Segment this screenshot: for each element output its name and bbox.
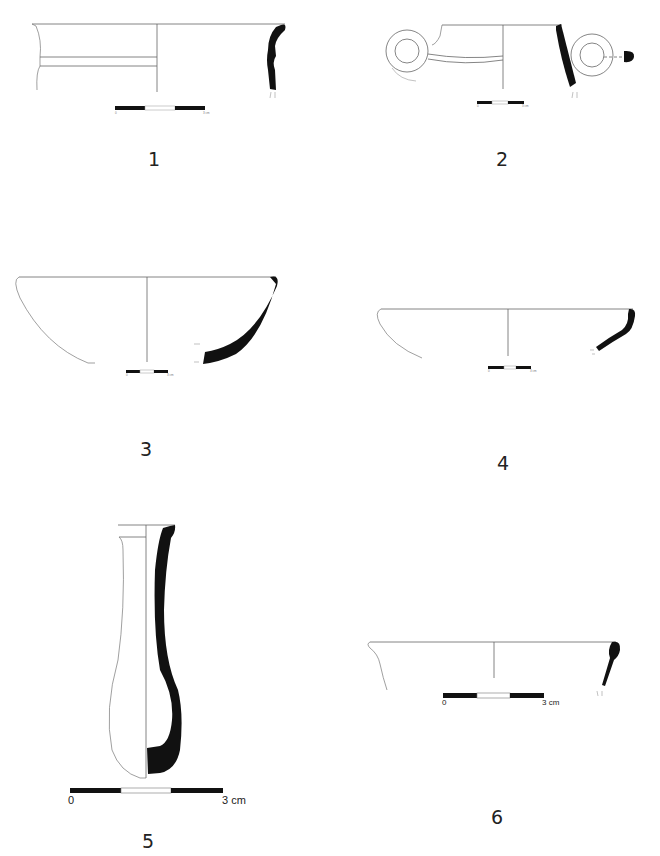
figure-3-label: 3	[140, 438, 152, 460]
figure-4: 0 3 cm 4	[330, 290, 660, 490]
figure-4-label: 4	[497, 452, 509, 474]
figure-1-label: 1	[148, 148, 160, 170]
figure-6-label: 6	[491, 806, 503, 828]
figure-3-drawing	[0, 260, 330, 470]
figure-5: 0 3 cm 5	[0, 510, 330, 856]
figure-5-scale-end: 3 cm	[222, 794, 246, 806]
figure-2: 0 3 cm 2	[330, 0, 660, 180]
figure-1-drawing	[0, 0, 330, 180]
figure-6-scale-start: 0	[442, 698, 446, 707]
figure-5-drawing	[0, 510, 330, 856]
figure-3-scale-start: 0	[126, 373, 128, 377]
figure-1-scale-end: 3 cm	[203, 111, 210, 115]
figure-6-scale-end: 3 cm	[542, 698, 559, 707]
figure-6: 0 3 cm 6	[330, 620, 660, 856]
figure-1-scale-start: 0	[115, 111, 117, 115]
figure-5-label: 5	[142, 830, 154, 852]
figure-2-label: 2	[496, 148, 508, 170]
figure-2-scale-end: 3 cm	[522, 104, 529, 108]
figure-2-drawing	[330, 0, 660, 180]
figure-4-scale-end: 3 cm	[530, 369, 537, 373]
figure-1: 0 3 cm 1	[0, 0, 330, 180]
figure-4-scale-start: 0	[488, 369, 490, 373]
figure-4-drawing	[330, 290, 660, 490]
figure-3-scale-end: 3 cm	[167, 373, 174, 377]
figure-5-scale-start: 0	[68, 794, 74, 806]
figure-3: 0 3 cm 3	[0, 260, 330, 470]
figure-2-scale-start: 0	[477, 104, 479, 108]
